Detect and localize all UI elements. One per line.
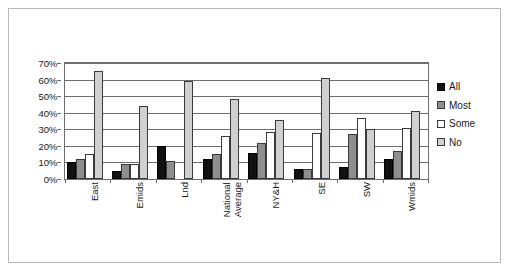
bar <box>275 120 284 179</box>
y-axis-tick-label: 20% <box>39 140 57 151</box>
x-axis-tick-label: NY&H <box>271 182 281 208</box>
bar <box>384 159 393 179</box>
x-axis-tick-label: Lnd <box>180 182 190 198</box>
bar <box>85 154 94 179</box>
legend-item-label: Most <box>449 100 471 111</box>
bar <box>94 71 103 179</box>
x-axis-tick-mark <box>428 179 429 183</box>
y-axis-tick-label: 30% <box>39 124 57 135</box>
bar-group <box>294 63 330 179</box>
legend-item-no[interactable]: No <box>437 137 495 148</box>
y-axis: 70%60%50%40%30%20%10%0% <box>9 62 61 179</box>
x-axis-tick-label: SW <box>362 182 372 197</box>
x-axis: EastEmidsLndNationalAverageNY&HSESWWmids <box>64 180 427 260</box>
bar <box>257 143 266 179</box>
chart-frame: 70%60%50%40%30%20%10%0% EastEmidsLndNati… <box>8 8 501 263</box>
bar <box>266 132 275 179</box>
bar-group <box>203 63 239 179</box>
legend-swatch-icon <box>437 138 445 146</box>
y-axis-tick-mark <box>57 162 61 163</box>
x-axis-tick-label: NationalAverage <box>221 182 243 217</box>
bar <box>139 106 148 179</box>
bar-group <box>339 63 375 179</box>
bar <box>366 129 375 179</box>
y-axis-tick-mark <box>57 146 61 147</box>
y-axis-tick-mark <box>57 129 61 130</box>
bar <box>312 133 321 179</box>
bar <box>357 118 366 179</box>
bar <box>221 136 230 179</box>
y-axis-tick-mark <box>57 179 61 180</box>
y-axis-tick-label: 10% <box>39 157 57 168</box>
x-axis-tick-label: Wmids <box>407 182 417 211</box>
y-axis-tick-label: 60% <box>39 74 57 85</box>
y-axis-tick-label: 0% <box>44 174 57 185</box>
bar <box>76 159 85 179</box>
bar <box>294 169 303 179</box>
legend-item-label: All <box>449 81 460 92</box>
bar <box>130 164 139 179</box>
bar <box>393 151 402 179</box>
bar <box>230 99 239 179</box>
chart-plot-wrapper: 70%60%50%40%30%20%10%0% EastEmidsLndNati… <box>9 9 500 262</box>
bar-group <box>384 63 420 179</box>
bar <box>348 134 357 179</box>
legend-item-label: No <box>449 137 462 148</box>
legend-swatch-icon <box>437 101 445 109</box>
bar <box>166 161 175 179</box>
bar <box>339 167 348 179</box>
bar <box>157 146 166 179</box>
y-axis-tick-mark <box>57 113 61 114</box>
legend-item-all[interactable]: All <box>437 81 495 92</box>
y-axis-tick-mark <box>57 80 61 81</box>
bar <box>303 169 312 179</box>
legend-swatch-icon <box>437 83 445 91</box>
bar-group <box>248 63 284 179</box>
bar <box>212 154 221 179</box>
chart-legend: AllMostSomeNo <box>437 81 495 155</box>
bar <box>112 171 121 179</box>
bar-group <box>112 63 148 179</box>
legend-item-label: Some <box>449 118 475 129</box>
y-axis-tick-mark <box>57 96 61 97</box>
x-axis-tick-label: SE <box>317 182 327 195</box>
x-axis-tick-label: East <box>90 182 100 201</box>
y-axis-tick-label: 70% <box>39 58 57 69</box>
y-axis-tick-label: 40% <box>39 107 57 118</box>
bar <box>248 153 257 180</box>
bar <box>321 78 330 179</box>
bar <box>402 128 411 179</box>
bar <box>411 111 420 179</box>
bar <box>184 81 193 179</box>
legend-item-most[interactable]: Most <box>437 100 495 111</box>
y-axis-tick-mark <box>57 63 61 64</box>
bar-group <box>67 63 103 179</box>
plot-area <box>64 62 429 180</box>
bar <box>67 162 76 179</box>
legend-item-some[interactable]: Some <box>437 118 495 129</box>
bar-group <box>157 63 193 179</box>
bar <box>203 159 212 179</box>
bar <box>121 164 130 179</box>
legend-swatch-icon <box>437 120 445 128</box>
y-axis-tick-label: 50% <box>39 91 57 102</box>
x-axis-tick-label: Emids <box>135 182 145 208</box>
